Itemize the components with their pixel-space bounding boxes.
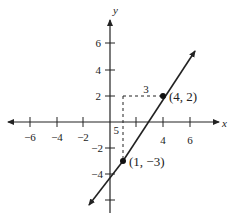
point-4-2 (160, 93, 166, 99)
y-tick-label: 4 (96, 64, 102, 76)
x-tick-label: 4 (160, 134, 166, 146)
point-label-1-neg3: (1, −3) (129, 154, 165, 169)
x-tick-label: −4 (51, 131, 63, 143)
graph-line (123, 51, 195, 161)
x-tick-label: −2 (77, 131, 89, 143)
y-axis-label: y (112, 4, 118, 16)
point-1-neg3 (120, 158, 126, 164)
x-axis-label: x (221, 117, 227, 129)
point-label-4-2: (4, 2) (169, 89, 197, 104)
coordinate-plane: −6 −4 −2 4 6 6 4 2 −2 −4 x y 3 5 (4, 2) … (0, 0, 228, 213)
y-tick-label: −4 (91, 168, 103, 180)
x-tick-label: 6 (187, 134, 193, 146)
x-tick-label: −6 (24, 131, 36, 143)
y-tick-label: −2 (91, 142, 103, 154)
y-tick-label: 6 (96, 37, 102, 49)
y-tick-label: 2 (96, 90, 102, 102)
rise-label: 5 (114, 124, 120, 136)
run-label: 3 (143, 83, 149, 95)
